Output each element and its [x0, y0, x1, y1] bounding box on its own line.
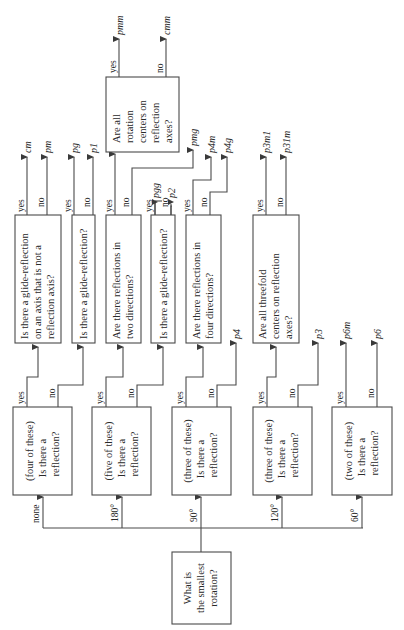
svg-text:Is there a glide-reflection: Is there a glide-reflection [19, 232, 30, 339]
svg-text:axes?: axes? [163, 119, 174, 143]
svg-text:Are there reflections in: Are there reflections in [191, 241, 202, 339]
result-p2: p2 [166, 188, 177, 199]
edge-label-60: 60° [350, 509, 360, 523]
svg-text:centers on: centers on [137, 99, 148, 143]
svg-text:on an axis that is not a: on an axis that is not a [32, 245, 43, 339]
svg-text:yes: yes [182, 199, 192, 212]
result-cmm: cmm [161, 16, 172, 35]
svg-text:yes: yes [255, 199, 265, 212]
glide-axis-node: Is there a glide-reflection on an axis t… [15, 215, 61, 343]
svg-text:reflection?: reflection? [50, 431, 61, 476]
svg-text:no: no [206, 388, 216, 398]
edge-label-90: 90° [189, 509, 199, 523]
svg-text:Is there a: Is there a [37, 438, 48, 477]
svg-text:(three of these): (three of these) [182, 419, 194, 483]
svg-text:no: no [275, 197, 285, 207]
reflection-node-120: (three of these) Is there a reflection? [253, 407, 312, 495]
svg-text:Is there a glide-reflection?: Is there a glide-reflection? [78, 228, 89, 339]
edge-label-none: none [31, 505, 41, 523]
edge-label-120: 120° [270, 504, 280, 522]
svg-text:Is there a glide-reflection?: Is there a glide-reflection? [158, 228, 169, 339]
svg-text:axes?: axes? [283, 315, 294, 339]
root-line-2: the smallest [195, 563, 206, 613]
svg-text:yes: yes [104, 199, 114, 212]
result-p6: p6 [372, 329, 383, 340]
svg-text:reflection?: reflection? [289, 432, 300, 477]
svg-text:Is there a: Is there a [195, 439, 206, 478]
root-line-1: What is [182, 572, 193, 604]
svg-text:no: no [121, 197, 131, 207]
result-pm: pm [42, 141, 53, 154]
level3-no-label: no [155, 63, 165, 73]
svg-text:Are all: Are all [111, 114, 122, 143]
svg-text:reflection axis?: reflection axis? [45, 274, 56, 339]
result-p4: p4 [231, 329, 242, 340]
svg-text:reflection: reflection [150, 102, 161, 143]
threefold-node: Are all threefold centers on reflection … [253, 215, 299, 343]
result-p3m1: p3m1 [261, 131, 272, 154]
svg-text:yes: yes [144, 199, 154, 212]
svg-text:no: no [47, 388, 57, 398]
result-pg: pg [69, 143, 80, 154]
svg-text:yes: yes [63, 199, 73, 212]
edge-label-180: 180° [110, 504, 120, 522]
svg-text:yes: yes [16, 199, 26, 212]
result-p1: p1 [88, 143, 99, 154]
rotation-centers-node: Are all rotation centers on reflection a… [106, 77, 179, 152]
result-cm: cm [22, 141, 33, 153]
result-p3: p3 [313, 329, 324, 340]
result-pmm: pmm [114, 16, 125, 36]
svg-text:rotation: rotation [124, 110, 135, 143]
svg-text:centers on reflection: centers on reflection [270, 253, 281, 339]
root-line-3: rotation? [208, 569, 219, 607]
svg-text:Is there a: Is there a [276, 439, 287, 478]
result-pmg: pmg [188, 129, 199, 147]
svg-text:yes: yes [95, 391, 105, 404]
svg-text:Is there a: Is there a [116, 438, 127, 477]
four-directions-node: Are there reflections in four directions… [186, 215, 221, 343]
svg-text:(five of these): (five of these) [103, 421, 115, 480]
svg-text:no: no [126, 388, 136, 398]
level1-yes-no-labels: yes no yes no yes no yes no yes no [16, 388, 376, 404]
svg-text:yes: yes [175, 391, 185, 404]
svg-text:yes: yes [16, 391, 26, 404]
svg-text:no: no [287, 388, 297, 398]
svg-text:Is there a: Is there a [356, 437, 367, 476]
root-node: What is the smallest rotation? [172, 552, 231, 624]
svg-text:yes: yes [335, 391, 345, 404]
svg-text:yes: yes [256, 391, 266, 404]
svg-text:no: no [199, 197, 209, 207]
glide-node-180: Is there a glide-reflection? [151, 215, 175, 343]
svg-text:reflection?: reflection? [129, 431, 140, 476]
reflection-node-90: (three of these) Is there a reflection? [172, 407, 231, 495]
svg-text:reflection?: reflection? [369, 430, 380, 475]
flowchart: What is the smallest rotation? none 180°… [0, 0, 404, 630]
two-directions-node: Are there reflections in two directions? [106, 215, 141, 343]
svg-text:(three of these): (three of these) [263, 419, 275, 483]
svg-text:(two of these): (two of these) [343, 421, 355, 480]
svg-text:no: no [366, 388, 376, 398]
result-p4g: p4g [222, 138, 233, 154]
rotation-bus [43, 528, 363, 552]
reflection-node-none: (four of these) Is there a reflection? [13, 407, 72, 495]
reflection-node-180: (five of these) Is there a reflection? [92, 407, 151, 495]
result-p6m: p6m [341, 322, 352, 340]
result-p4m: p4m [206, 136, 217, 154]
svg-text:four directions?: four directions? [204, 272, 215, 339]
svg-text:Are all threefold: Are all threefold [257, 269, 268, 339]
result-pgg: pgg [150, 183, 161, 199]
result-p31m: p31m [281, 131, 292, 154]
svg-text:(four of these): (four of these) [24, 420, 36, 481]
glide-node-none: Is there a glide-reflection? [72, 215, 95, 343]
reflection-node-60: (two of these) Is there a reflection? [332, 407, 392, 495]
level1-edges [27, 343, 377, 407]
svg-text:reflection?: reflection? [208, 432, 219, 477]
svg-text:no: no [36, 197, 46, 207]
svg-text:Are there reflections in: Are there reflections in [111, 241, 122, 339]
level3-yes-label: yes [108, 60, 118, 73]
svg-text:two directions?: two directions? [124, 274, 135, 339]
level2-yes-no-labels: yes no yes no yes no yes no yes no yes n… [16, 197, 285, 212]
svg-text:no: no [82, 197, 92, 207]
rotation-edges [43, 497, 362, 528]
